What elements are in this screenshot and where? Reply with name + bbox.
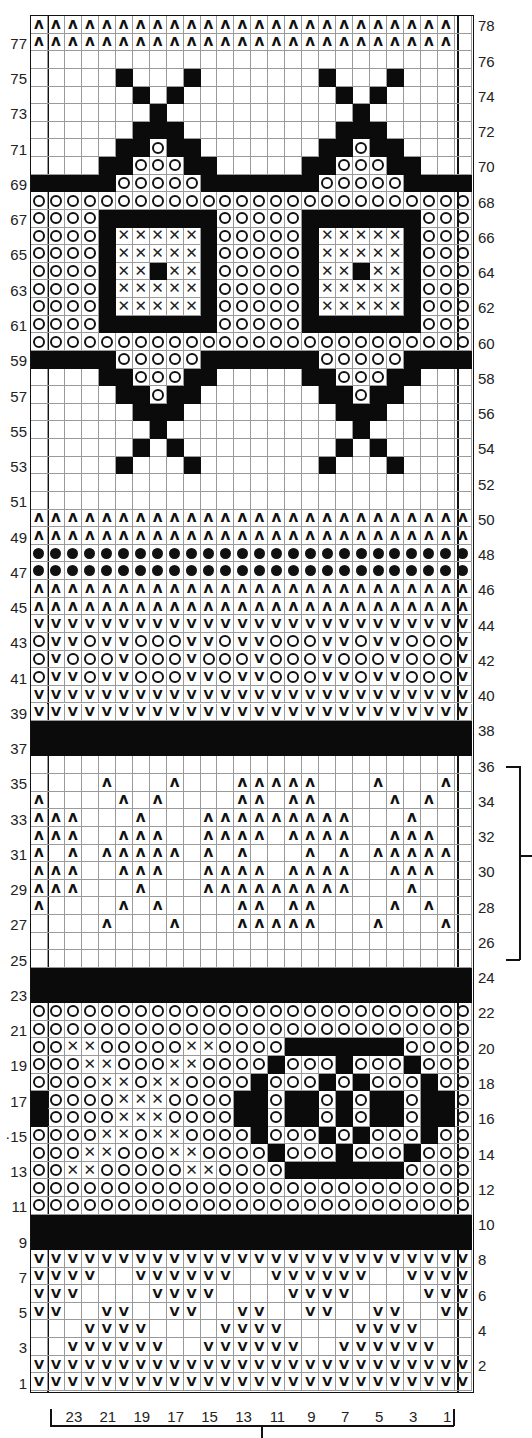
circle-cell xyxy=(234,1021,251,1039)
chart-row-6: VVVVVVVVVVVVVV xyxy=(31,1285,473,1303)
circle-cell xyxy=(455,298,472,316)
circle-cell xyxy=(217,280,234,298)
right-row-label: 16 xyxy=(478,1111,495,1126)
blank-cell xyxy=(48,139,65,157)
cross-icon: ✕ xyxy=(338,264,351,279)
black-cell xyxy=(31,739,48,757)
circle-icon xyxy=(203,1094,215,1106)
circle-icon xyxy=(389,1182,401,1194)
blank-cell xyxy=(353,845,370,863)
vee-icon: V xyxy=(373,1322,383,1335)
blank-cell xyxy=(65,774,82,792)
circle-icon xyxy=(287,212,299,224)
vee-icon: V xyxy=(305,1252,315,1265)
left-row-label: 45 xyxy=(0,600,27,615)
dot-cell xyxy=(387,562,404,580)
circle-icon xyxy=(219,1094,231,1106)
circle-cell xyxy=(319,1021,336,1039)
circle-icon xyxy=(355,1182,367,1194)
caret-icon: ʌ xyxy=(221,510,231,525)
caret-icon: ʌ xyxy=(34,810,44,825)
caret-cell: ʌ xyxy=(438,16,455,34)
caret-cell: ʌ xyxy=(234,897,251,915)
blank-cell xyxy=(217,933,234,951)
caret-cell: ʌ xyxy=(353,598,370,616)
blank-cell xyxy=(82,915,99,933)
cross-cell: ✕ xyxy=(370,298,387,316)
circle-cell xyxy=(65,192,82,210)
circle-icon xyxy=(372,1023,384,1035)
dot-icon xyxy=(389,548,400,559)
circle-icon xyxy=(236,336,248,348)
circle-cell xyxy=(302,1021,319,1039)
circle-icon xyxy=(270,635,282,647)
circle-cell xyxy=(217,192,234,210)
blank-cell xyxy=(150,87,167,105)
chart-row-14: ✕✕✕✕ xyxy=(31,1144,473,1162)
black-cell xyxy=(251,1127,268,1145)
blank-cell xyxy=(150,69,167,87)
vee-cell: V xyxy=(31,1268,48,1286)
circle-icon xyxy=(152,177,164,189)
circle-icon xyxy=(118,1005,130,1017)
blank-cell xyxy=(387,950,404,968)
black-cell xyxy=(167,404,184,422)
circle-icon xyxy=(152,1147,164,1159)
vee-icon: V xyxy=(254,1322,264,1335)
circle-icon xyxy=(423,1041,435,1053)
caret-icon: ʌ xyxy=(102,17,112,32)
circle-cell xyxy=(285,263,302,281)
vee-cell: V xyxy=(82,1268,99,1286)
caret-icon: ʌ xyxy=(119,863,129,878)
circle-cell xyxy=(404,1127,421,1145)
blank-cell xyxy=(133,792,150,810)
circle-cell xyxy=(217,1038,234,1056)
blank-cell xyxy=(387,87,404,105)
blank-cell xyxy=(438,51,455,69)
black-cell xyxy=(336,404,353,422)
circle-icon xyxy=(389,1147,401,1159)
dot-cell xyxy=(48,545,65,563)
cross-cell: ✕ xyxy=(133,1091,150,1109)
circle-icon xyxy=(270,1164,282,1176)
circle-icon xyxy=(186,1111,198,1123)
black-cell xyxy=(217,175,234,193)
black-cell xyxy=(353,1162,370,1180)
vee-cell: V xyxy=(455,1373,472,1391)
vee-icon: V xyxy=(153,688,163,701)
black-cell xyxy=(387,69,404,87)
circle-icon xyxy=(236,1023,248,1035)
vee-icon: V xyxy=(85,617,95,630)
caret-icon: ʌ xyxy=(153,510,163,525)
chart-row-7: VVVVVVVVVVVVVVVVVVVV xyxy=(31,1268,473,1286)
circle-icon xyxy=(457,195,469,207)
black-cell xyxy=(387,739,404,757)
circle-cell xyxy=(82,333,99,351)
vee-icon: V xyxy=(407,1252,417,1265)
caret-icon: ʌ xyxy=(390,828,400,843)
black-cell xyxy=(455,1232,472,1250)
vee-icon: V xyxy=(373,1340,383,1353)
black-cell xyxy=(116,739,133,757)
stitch-label: 11 xyxy=(265,1408,289,1425)
caret-cell: ʌ xyxy=(404,880,421,898)
blank-cell xyxy=(285,933,302,951)
vee-icon: V xyxy=(322,1287,332,1300)
caret-cell: ʌ xyxy=(116,16,133,34)
caret-icon: ʌ xyxy=(51,810,61,825)
circle-icon xyxy=(287,653,299,665)
blank-cell xyxy=(370,492,387,510)
blank-cell xyxy=(82,421,99,439)
dot-icon xyxy=(440,548,451,559)
circle-icon xyxy=(270,300,282,312)
circle-cell xyxy=(370,1003,387,1021)
circle-icon xyxy=(186,1182,198,1194)
caret-cell: ʌ xyxy=(217,880,234,898)
dot-cell xyxy=(268,562,285,580)
circle-icon xyxy=(169,653,181,665)
cross-icon: ✕ xyxy=(117,281,130,296)
blank-cell xyxy=(336,104,353,122)
circle-cell xyxy=(353,369,370,387)
circle-cell xyxy=(65,245,82,263)
black-cell xyxy=(234,739,251,757)
